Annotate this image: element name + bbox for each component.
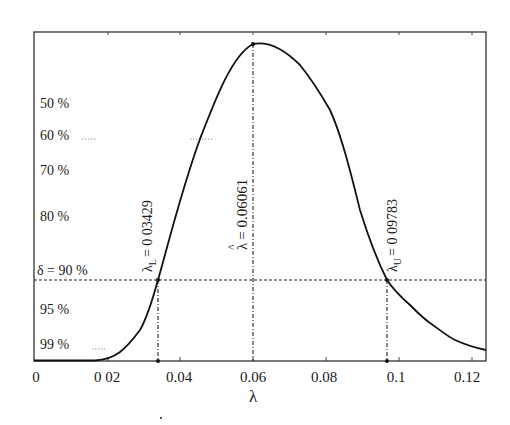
likelihood-curve	[34, 43, 486, 360]
lambda-u-value: = 0 09783	[385, 199, 400, 256]
lambda-u-annotation: λU= 0 09783	[385, 199, 403, 272]
confidence-level-labels: 50 % 60 % 70 % 80 % δ = 90 % 95 % 99 %	[37, 96, 88, 352]
lambda-l-annotation: λL= 0 03429	[140, 200, 158, 272]
lambda-u-subscript: U	[392, 257, 403, 265]
lambda-hat-annotation: λ= 0.06061 ^	[225, 179, 250, 250]
x-tick-0: 0	[32, 369, 40, 385]
plot-frame	[34, 32, 486, 361]
scan-artifact-dot	[160, 417, 162, 419]
x-tick-008: 0.08	[311, 369, 337, 385]
lambda-hat-value: = 0.06061	[234, 179, 250, 240]
lambda-l-axis-point	[156, 359, 160, 363]
likelihood-chart: 50 % 60 % 70 % 80 % δ = 90 % 95 % 99 % λ…	[0, 0, 510, 425]
level-80: 80 %	[40, 209, 70, 224]
level-50: 50 %	[40, 96, 70, 111]
x-tick-004: 0.04	[166, 369, 193, 385]
svg-text:λU= 0 09783: λU= 0 09783	[385, 199, 403, 272]
level-60: 60 %	[40, 128, 70, 143]
lambda-u-axis-point	[385, 359, 389, 363]
x-tick-006: 0.06	[240, 369, 267, 385]
level-70: 70 %	[40, 163, 70, 178]
x-tick-012: 0.12	[454, 369, 480, 385]
lambda-l-point	[156, 278, 160, 282]
x-tick-002: 0 02	[94, 369, 120, 385]
level-99: 99 %	[40, 337, 70, 352]
x-axis-label: λ	[249, 387, 258, 406]
svg-text:λL= 0 03429: λL= 0 03429	[140, 200, 158, 272]
level-95: 95 %	[40, 302, 70, 317]
lambda-l-subscript: L	[147, 259, 158, 265]
peak-point	[251, 42, 255, 46]
level-delta-90: δ = 90 %	[37, 263, 88, 278]
hat-accent: ^	[225, 244, 239, 250]
x-tick-01: 0.1	[387, 369, 406, 385]
lambda-u-point	[385, 278, 389, 282]
svg-text:λ= 0.06061: λ= 0.06061	[234, 179, 250, 250]
lambda-l-value: = 0 03429	[140, 200, 155, 257]
x-tick-labels: 0 0 02 0.04 0.06 0.08 0.1 0.12	[32, 369, 480, 385]
